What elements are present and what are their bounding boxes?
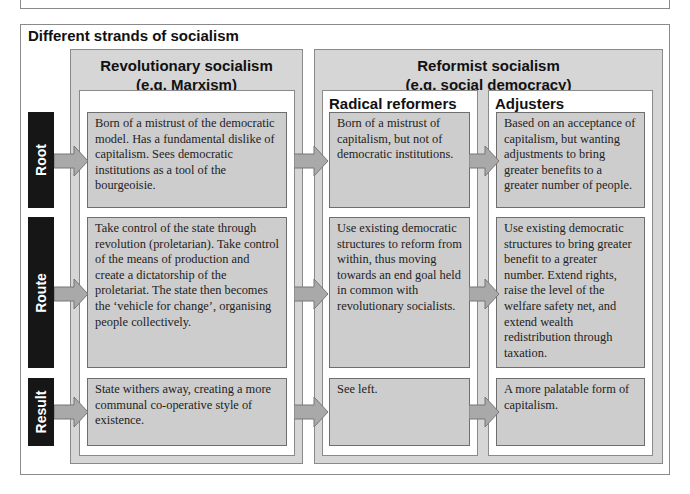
arrow-right-icon <box>294 396 330 428</box>
root-adjusters-box: Based on an acceptance of capitalism, bu… <box>496 112 645 208</box>
previous-box-edge <box>20 0 670 9</box>
root-revolutionary-box: Born of a mistrust of the democratic mod… <box>87 112 287 208</box>
result-adjusters-box: A more palatable form of capitalism. <box>496 378 645 446</box>
route-revolutionary-box: Take control of the state through revolu… <box>87 217 287 368</box>
root-radical-box: Born of a mistrust of capitalism, but no… <box>329 112 470 208</box>
route-adjusters-box: Use existing democratic structures to br… <box>496 217 645 368</box>
reformist-heading: Reformist socialism (e.g. social democra… <box>315 56 662 94</box>
route-radical-box: Use existing democratic structures to re… <box>329 217 470 368</box>
arrow-right-icon <box>469 145 501 177</box>
arrow-right-icon <box>54 145 90 177</box>
arrow-right-icon <box>469 278 501 310</box>
revolutionary-heading: Revolutionary socialism (e.g. Marxism) <box>71 56 302 94</box>
arrow-right-icon <box>54 278 90 310</box>
adjusters-heading: Adjusters <box>495 95 652 112</box>
result-radical-box: See left. <box>329 378 470 446</box>
arrow-right-icon <box>294 145 330 177</box>
radical-heading: Radical reformers <box>329 95 477 112</box>
arrow-right-icon <box>294 278 330 310</box>
arrow-right-icon <box>54 396 90 428</box>
row-label-route: Route <box>28 217 54 368</box>
row-label-result: Result <box>28 378 54 446</box>
arrow-right-icon <box>469 396 501 428</box>
row-label-root: Root <box>28 112 54 208</box>
result-revolutionary-box: State withers away, creating a more comm… <box>87 378 287 446</box>
diagram-title: Different strands of socialism <box>28 27 239 44</box>
